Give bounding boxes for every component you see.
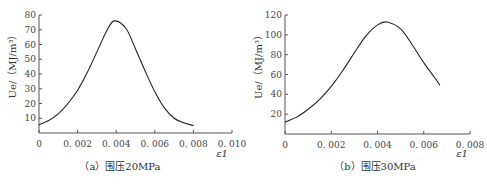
y-tick-label: 50 (25, 54, 37, 64)
x-tick-label: 0 (36, 139, 42, 149)
x-axis-label: ε1 (216, 148, 228, 159)
chart-figure: 102030405060708000. 0020. 0040. 0060. 00… (0, 0, 487, 185)
y-tick-label: 60 (25, 40, 37, 50)
x-tick-label: 0. 002 (63, 139, 92, 149)
energy-curve (39, 21, 193, 126)
x-axis-label: ε1 (456, 148, 468, 159)
energy-curve (285, 22, 440, 122)
x-tick-label: 0. 002 (317, 140, 346, 150)
x-tick-label: 0 (282, 140, 288, 150)
y-tick-label: 60 (271, 70, 283, 80)
y-tick-label: 70 (25, 25, 37, 35)
y-tick-label: 20 (271, 109, 283, 119)
y-tick-label: 80 (271, 50, 283, 60)
y-axis-label: Ue/（MJ/m³） (253, 30, 264, 99)
x-tick-label: 0. 006 (140, 139, 169, 149)
x-tick-label: 0. 008 (179, 139, 208, 149)
y-tick-label: 20 (25, 99, 37, 109)
y-tick-label: 100 (265, 30, 282, 40)
panel-caption: （b）围压30MPa (334, 161, 416, 172)
y-tick-label: 40 (25, 69, 37, 79)
y-tick-label: 80 (25, 10, 37, 20)
x-tick-label: 0. 004 (363, 140, 392, 150)
y-axis-label: Ue/（MJ/m³） (7, 30, 18, 99)
y-tick-label: 10 (25, 113, 37, 123)
y-tick-label: 120 (265, 10, 282, 20)
x-tick-label: 0. 006 (409, 140, 438, 150)
panel-caption: （a）围压20MPa (79, 161, 160, 172)
y-tick-label: 30 (25, 84, 37, 94)
x-tick-label: 0. 004 (102, 139, 131, 149)
y-tick-label: 40 (271, 89, 283, 99)
